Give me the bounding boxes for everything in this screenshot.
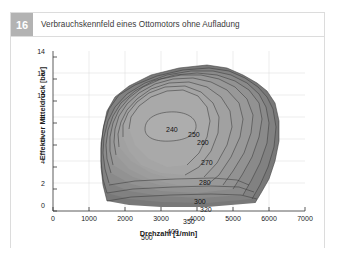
y-tick-label: 10 (19, 92, 45, 99)
y-tick-label: 12 (19, 70, 45, 77)
y-tick-label: 6 (19, 136, 45, 143)
x-tick-label: 2000 (105, 215, 145, 222)
engine-fuel-consumption-map: Effektiver Mitteldruck [bar] Drehzahl [1… (11, 37, 326, 248)
figure-number-badge: 16 (11, 13, 33, 36)
contour-label-250: 250 (188, 131, 200, 138)
y-tick-label: 14 (19, 48, 45, 55)
contour-label-280: 280 (199, 179, 211, 186)
screenshot-root: 16 Verbrauchskennfeld eines Ottomotors o… (0, 0, 339, 261)
y-tick-label: 8 (19, 114, 45, 121)
contour-label-300: 300 (194, 198, 206, 205)
x-tick-label: 7000 (285, 215, 325, 222)
contour-label-240: 240 (166, 126, 178, 133)
x-tick-label: 5000 (213, 215, 253, 222)
x-tick-label: 1000 (69, 215, 109, 222)
contour-label-260: 260 (197, 139, 209, 146)
x-axis-title: Drehzahl [1/min] (11, 229, 326, 238)
x-tick-label: 6000 (249, 215, 289, 222)
y-tick-label: 2 (19, 180, 45, 187)
x-tick-label: 3000 (141, 215, 181, 222)
figure-body: Effektiver Mitteldruck [bar] Drehzahl [1… (11, 37, 324, 248)
y-tick-label: 0 (19, 202, 45, 209)
contour-label-320: 320 (200, 206, 212, 213)
contour-label-270: 270 (201, 159, 213, 166)
figure-caption: Verbrauchskennfeld eines Ottomotors ohne… (33, 13, 324, 36)
figure-header: 16 Verbrauchskennfeld eines Ottomotors o… (11, 13, 324, 37)
y-tick-label: 4 (19, 158, 45, 165)
x-tick-label: 4000 (177, 215, 217, 222)
x-tick-label: 0 (33, 215, 73, 222)
figure-card: 16 Verbrauchskennfeld eines Ottomotors o… (10, 12, 325, 248)
